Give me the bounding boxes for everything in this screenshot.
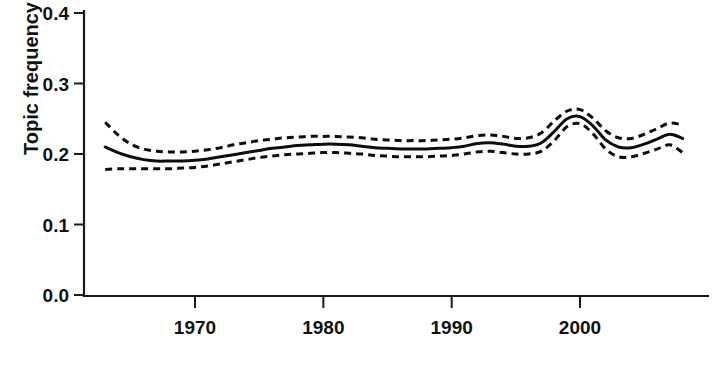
y-tick-label: 0.3: [43, 74, 69, 95]
y-tick-label: 0.1: [43, 215, 70, 236]
y-tick-label: 0.2: [43, 144, 69, 165]
y-tick-label: 0.0: [43, 285, 69, 306]
x-tick-label: 1980: [302, 317, 344, 338]
x-tick-label: 1990: [431, 317, 473, 338]
y-axis-title: Topic frequency: [20, 1, 42, 155]
x-axis-ticks: 1970198019902000: [174, 296, 601, 338]
x-tick-label: 1970: [174, 317, 216, 338]
y-axis-ticks: 0.00.10.20.30.4: [43, 3, 84, 306]
x-tick-label: 2000: [559, 317, 601, 338]
x-axis: 1970198019902000: [84, 296, 708, 338]
y-axis: 0.00.10.20.30.4: [43, 3, 84, 306]
chart-figure: 0.00.10.20.30.4 1970198019902000 Topic f…: [0, 0, 713, 371]
series-layer: [105, 109, 683, 170]
y-tick-label: 0.4: [43, 3, 70, 24]
topic-frequency-line-chart: 0.00.10.20.30.4 1970198019902000 Topic f…: [0, 0, 713, 371]
